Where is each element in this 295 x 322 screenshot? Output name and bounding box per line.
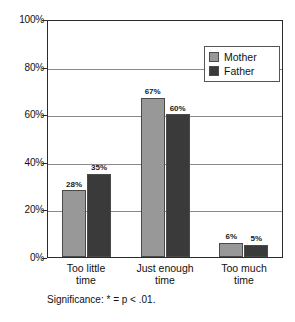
bar-value-mother-just-enough-time: 67% (133, 87, 173, 96)
x-label-too-much-time: Too much time (198, 262, 290, 286)
footnote: Significance: * = p < .01. (47, 294, 155, 306)
bar-value-father-too-much-time: 5% (236, 234, 276, 243)
bar-mother-just-enough-time[interactable] (141, 98, 165, 258)
bar-mother-too-much-time[interactable] (219, 243, 243, 257)
y-tick-label-100: 100% (4, 15, 44, 25)
bar-mother-too-little-time[interactable] (62, 190, 86, 257)
bar-father-too-little-time[interactable] (87, 174, 111, 257)
y-tick-label-20: 20% (4, 205, 44, 215)
bar-group-too-little-time: 28% 35% (48, 21, 127, 257)
legend: Mother Father (204, 46, 280, 82)
legend-swatch-mother-icon (209, 52, 219, 62)
legend-label-mother: Mother (224, 52, 257, 63)
y-tick-label-80: 80% (4, 63, 44, 73)
legend-swatch-father-icon (209, 66, 219, 76)
bar-value-father-just-enough-time: 60% (158, 104, 198, 113)
bar-group-just-enough-time: 67% 60% (127, 21, 206, 257)
y-tick-label-40: 40% (4, 158, 44, 168)
legend-item-mother[interactable]: Mother (209, 50, 275, 64)
bar-father-too-much-time[interactable] (244, 245, 268, 257)
legend-label-father: Father (224, 66, 254, 77)
y-tick-mark-0 (42, 258, 47, 259)
legend-item-father[interactable]: Father (209, 64, 275, 78)
bar-value-father-too-little-time: 35% (79, 163, 119, 172)
bar-chart: 100% 80% 60% 40% 20% 0% 28% 35% 67% (0, 0, 295, 322)
y-tick-label-60: 60% (4, 110, 44, 120)
x-label-too-much-time-line2: time (198, 274, 290, 286)
x-label-too-much-time-line1: Too much (198, 262, 290, 274)
bar-father-just-enough-time[interactable] (166, 114, 190, 257)
y-tick-label-0: 0% (4, 253, 44, 263)
plot-area: 28% 35% 67% 60% 6% 5% Mother Fat (47, 20, 283, 258)
